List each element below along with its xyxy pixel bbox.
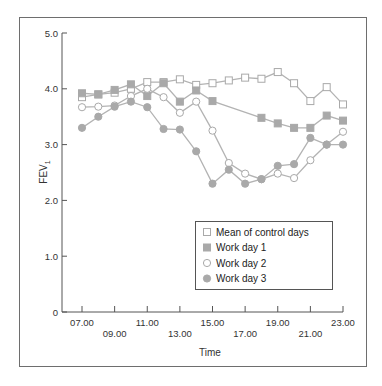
data-point-circle-filled-icon	[95, 113, 102, 120]
legend-circle-filled-icon	[203, 275, 210, 282]
data-point-square-open-icon	[307, 98, 314, 105]
legend-label: Work day 1	[216, 242, 267, 253]
legend-item: Mean of control days	[204, 227, 309, 238]
x-tick-label: 07.00	[70, 317, 94, 328]
data-point-circle-open-icon	[339, 128, 346, 135]
y-tick-label: 3.0	[45, 139, 58, 150]
data-point-circle-filled-icon	[144, 104, 151, 111]
y-axis-title: FEV1	[38, 160, 51, 183]
data-point-circle-filled-icon	[323, 141, 330, 148]
data-point-square-filled-icon	[307, 124, 314, 131]
data-point-square-open-icon	[274, 69, 281, 76]
y-tick-label: 4.0	[45, 83, 58, 94]
data-point-square-filled-icon	[193, 87, 200, 94]
data-point-square-open-icon	[242, 74, 249, 81]
data-point-square-open-icon	[291, 80, 298, 87]
legend: Mean of control daysWork day 1Work day 2…	[196, 222, 333, 290]
data-point-square-filled-icon	[127, 81, 134, 88]
data-point-circle-filled-icon	[127, 98, 134, 105]
data-point-circle-filled-icon	[258, 176, 265, 183]
data-point-square-open-icon	[209, 80, 216, 87]
data-point-square-filled-icon	[340, 117, 347, 124]
data-point-circle-filled-icon	[209, 180, 216, 187]
data-point-square-filled-icon	[323, 112, 330, 119]
data-point-square-filled-icon	[111, 86, 118, 93]
legend-label: Work day 3	[216, 273, 267, 284]
data-point-square-open-icon	[144, 79, 151, 86]
series-line	[82, 83, 343, 128]
data-point-circle-filled-icon	[111, 103, 118, 110]
data-point-square-open-icon	[258, 75, 265, 82]
x-tick-label: 23.00	[331, 317, 355, 328]
data-point-circle-filled-icon	[176, 126, 183, 133]
legend-circle-open-icon	[203, 259, 210, 266]
legend-label: Work day 2	[216, 258, 267, 269]
data-point-circle-open-icon	[290, 174, 297, 181]
chart-frame	[20, 18, 367, 367]
x-tick-label: 09.00	[103, 328, 127, 339]
y-tick-label: 0	[53, 307, 58, 318]
y-tick-label: 2.0	[45, 195, 58, 206]
x-axis-title: Time	[199, 347, 221, 358]
data-point-square-filled-icon	[274, 120, 281, 127]
data-point-square-filled-icon	[144, 93, 151, 100]
x-tick-label: 17.00	[233, 328, 257, 339]
series-work-day-3	[78, 98, 346, 187]
x-tick-label: 11.00	[136, 317, 159, 328]
data-point-circle-filled-icon	[225, 166, 232, 173]
x-tick-label: 21.00	[298, 328, 322, 339]
data-point-square-open-icon	[340, 101, 347, 108]
chart: 01.02.03.04.05.0 07.0009.0011.0013.0015.…	[0, 0, 382, 386]
data-point-circle-open-icon	[242, 170, 249, 177]
data-point-square-filled-icon	[176, 98, 183, 105]
data-point-circle-open-icon	[225, 159, 232, 166]
data-point-square-filled-icon	[258, 114, 265, 121]
legend-square-filled-icon	[204, 244, 211, 251]
data-point-circle-filled-icon	[193, 148, 200, 155]
data-point-square-filled-icon	[160, 80, 167, 87]
data-point-circle-filled-icon	[290, 161, 297, 168]
data-point-circle-open-icon	[95, 103, 102, 110]
data-point-square-filled-icon	[79, 90, 86, 97]
data-point-square-filled-icon	[95, 91, 102, 98]
plot-area	[78, 69, 346, 188]
y-tick-label: 5.0	[45, 28, 58, 39]
data-point-square-open-icon	[225, 77, 232, 84]
data-point-circle-filled-icon	[339, 141, 346, 148]
data-point-circle-open-icon	[78, 104, 85, 111]
data-point-circle-filled-icon	[307, 134, 314, 141]
x-tick-label: 13.00	[168, 328, 192, 339]
data-point-circle-filled-icon	[242, 180, 249, 187]
series-line	[82, 102, 343, 184]
data-point-square-open-icon	[323, 84, 330, 91]
data-point-square-filled-icon	[209, 98, 216, 105]
data-point-circle-open-icon	[209, 127, 216, 134]
data-point-circle-open-icon	[274, 170, 281, 177]
data-point-square-open-icon	[176, 76, 183, 83]
data-point-square-filled-icon	[291, 124, 298, 131]
legend-square-open-icon	[204, 229, 211, 236]
data-point-circle-open-icon	[176, 109, 183, 116]
data-point-circle-open-icon	[193, 98, 200, 105]
y-tick-label: 1.0	[45, 251, 58, 262]
data-point-circle-filled-icon	[160, 125, 167, 132]
x-axis: 07.0009.0011.0013.0015.0017.0019.0021.00…	[62, 306, 355, 339]
data-point-circle-open-icon	[144, 85, 151, 92]
data-point-circle-open-icon	[307, 157, 314, 164]
legend-label: Mean of control days	[216, 227, 309, 238]
data-point-circle-filled-icon	[78, 124, 85, 131]
data-point-circle-open-icon	[160, 94, 167, 101]
x-tick-label: 19.00	[266, 317, 290, 328]
x-tick-label: 15.00	[201, 317, 225, 328]
data-point-circle-filled-icon	[274, 162, 281, 169]
